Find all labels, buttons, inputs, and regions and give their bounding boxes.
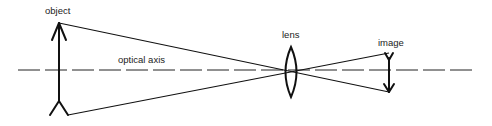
object-arrow	[50, 23, 68, 115]
lens-ray-diagram: object optical axis lens image	[0, 0, 492, 126]
optical-axis-label: optical axis	[118, 54, 165, 65]
object-label: object	[45, 5, 71, 16]
lower-ray	[68, 53, 389, 115]
image-arrow	[384, 53, 394, 92]
image-label: image	[378, 37, 404, 48]
upper-ray	[59, 23, 389, 92]
lens-label: lens	[282, 29, 300, 40]
